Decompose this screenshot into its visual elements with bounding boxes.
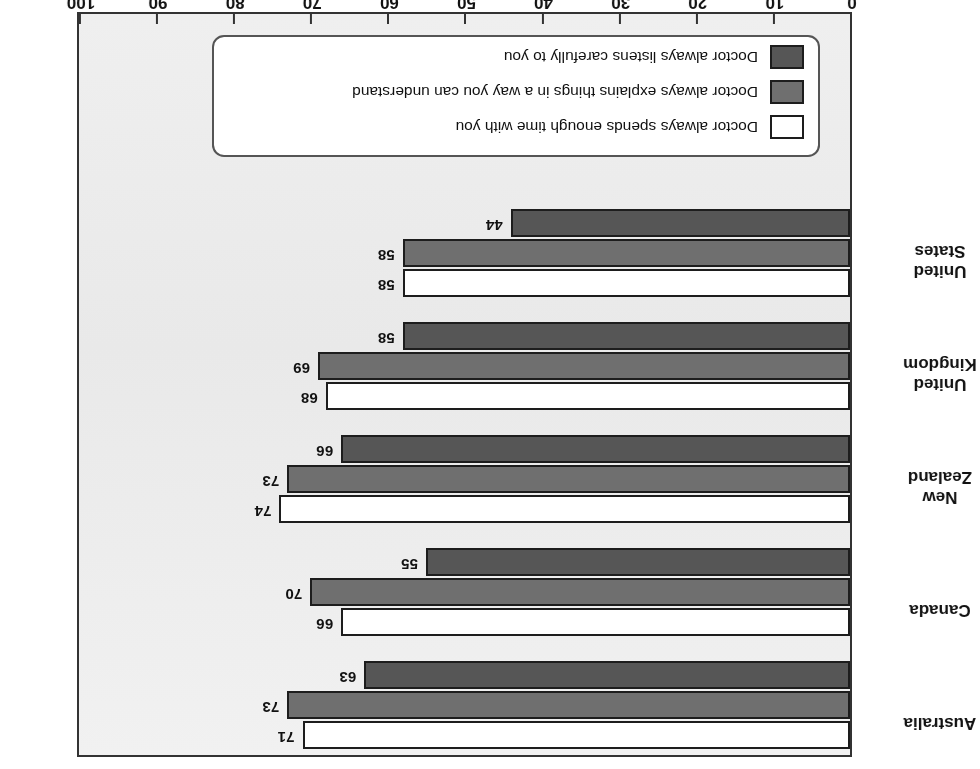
legend-item: Doctor always spends enough time with yo… xyxy=(228,111,804,143)
bar-value-label: 58 xyxy=(378,330,395,347)
axis-tick-label: 20 xyxy=(668,0,728,12)
bar-value-label: 73 xyxy=(262,473,279,490)
bar-value-label: 66 xyxy=(316,616,333,633)
bar-row: 58 xyxy=(79,269,850,297)
bar-value-label: 58 xyxy=(378,277,395,294)
axis-tick-label: 40 xyxy=(514,0,574,12)
legend-item: Doctor always listens carefully to you xyxy=(228,41,804,73)
bar-value-label: 55 xyxy=(401,556,418,573)
bar-united-kingdom-series2 xyxy=(403,322,850,350)
axis-tick-label: 90 xyxy=(128,0,188,12)
bar-row: 69 xyxy=(79,352,850,380)
legend-swatch-icon xyxy=(770,45,804,69)
axis-tick-label: 80 xyxy=(205,0,265,12)
bar-value-label: 73 xyxy=(262,699,279,716)
bar-value-label: 63 xyxy=(339,669,356,686)
bar-row: 58 xyxy=(79,322,850,350)
category-label-united-states: UnitedStates xyxy=(870,241,980,281)
axis-tick xyxy=(696,14,698,24)
axis-tick-label: 10 xyxy=(745,0,805,12)
bar-australia-series0 xyxy=(303,721,850,749)
axis-tick xyxy=(79,14,81,24)
bar-row: 63 xyxy=(79,661,850,689)
bar-row: 55 xyxy=(79,548,850,576)
category-label-new-zealand: NewZealand xyxy=(870,467,980,507)
category-label-united-kingdom: UnitedKingdom xyxy=(870,354,980,394)
legend-item: Doctor always explains things in a way y… xyxy=(228,76,804,108)
bar-united-kingdom-series1 xyxy=(318,352,850,380)
chart-legend: Doctor always spends enough time with yo… xyxy=(212,35,820,157)
bar-value-label: 68 xyxy=(301,390,318,407)
axis-tick xyxy=(233,14,235,24)
bar-new-zealand-series2 xyxy=(341,435,850,463)
legend-swatch-icon xyxy=(770,115,804,139)
bar-row: 74 xyxy=(79,495,850,523)
axis-tick xyxy=(465,14,467,24)
bar-row: 71 xyxy=(79,721,850,749)
bar-value-label: 66 xyxy=(316,443,333,460)
axis-tick xyxy=(310,14,312,24)
legend-label: Doctor always spends enough time with yo… xyxy=(456,118,758,136)
bar-united-states-series2 xyxy=(511,209,850,237)
bar-row: 66 xyxy=(79,435,850,463)
bar-value-label: 69 xyxy=(293,360,310,377)
legend-label: Doctor always explains things in a way y… xyxy=(352,83,758,101)
bar-row: 68 xyxy=(79,382,850,410)
axis-tick-label: 70 xyxy=(282,0,342,12)
axis-tick xyxy=(619,14,621,24)
bar-row: 66 xyxy=(79,608,850,636)
bar-united-states-series1 xyxy=(403,239,850,267)
axis-tick xyxy=(387,14,389,24)
bar-united-kingdom-series0 xyxy=(326,382,850,410)
legend-swatch-icon xyxy=(770,80,804,104)
bar-canada-series2 xyxy=(426,548,850,576)
axis-tick xyxy=(773,14,775,24)
bar-value-label: 58 xyxy=(378,247,395,264)
bar-australia-series1 xyxy=(287,691,850,719)
bar-row: 73 xyxy=(79,691,850,719)
axis-tick-label: 50 xyxy=(437,0,497,12)
axis-tick-label: 0 xyxy=(822,0,882,12)
bar-value-label: 70 xyxy=(285,586,302,603)
bar-new-zealand-series1 xyxy=(287,465,850,493)
bar-new-zealand-series0 xyxy=(279,495,850,523)
bar-canada-series1 xyxy=(310,578,850,606)
axis-tick-label: 30 xyxy=(591,0,651,12)
bar-canada-series0 xyxy=(341,608,850,636)
axis-tick xyxy=(542,14,544,24)
bar-row: 44 xyxy=(79,209,850,237)
bar-united-states-series0 xyxy=(403,269,850,297)
axis-tick xyxy=(156,14,158,24)
bar-row: 73 xyxy=(79,465,850,493)
axis-tick-label: 100 xyxy=(51,0,111,12)
legend-label: Doctor always listens carefully to you xyxy=(504,48,758,66)
bar-value-label: 71 xyxy=(278,729,295,746)
category-label-canada: Canada xyxy=(870,600,980,620)
bar-value-label: 74 xyxy=(254,503,271,520)
bar-row: 70 xyxy=(79,578,850,606)
bar-value-label: 44 xyxy=(486,217,503,234)
category-label-australia: Australia xyxy=(870,713,980,733)
bar-row: 58 xyxy=(79,239,850,267)
bar-australia-series2 xyxy=(364,661,850,689)
bars-container: 717363667055747366686958585844 xyxy=(79,172,850,755)
axis-tick-label: 60 xyxy=(359,0,419,12)
